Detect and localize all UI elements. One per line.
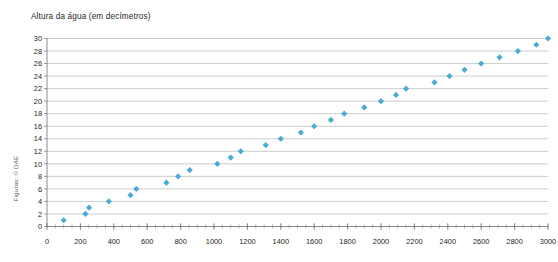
chart-container: Altura da água (em decímetros) Figuras: … bbox=[0, 0, 558, 262]
data-point-marker bbox=[86, 205, 92, 211]
data-point-marker bbox=[278, 136, 284, 142]
y-tick-label: 12 bbox=[34, 147, 42, 156]
scatter-plot-svg: 024681012141618202224262830 020040060080… bbox=[0, 0, 558, 262]
y-tick-label: 30 bbox=[34, 34, 42, 43]
x-tick-label: 400 bbox=[108, 237, 120, 246]
data-point-marker bbox=[187, 167, 193, 173]
data-point-marker bbox=[341, 111, 347, 117]
plot-area: 024681012141618202224262830 020040060080… bbox=[0, 0, 558, 262]
x-tick-label: 1000 bbox=[206, 237, 222, 246]
x-tick-labels-group: 0200400600800100012001400160018002000220… bbox=[45, 237, 556, 246]
x-tick-label: 600 bbox=[141, 237, 153, 246]
y-tick-label: 8 bbox=[38, 172, 42, 181]
y-tick-label: 26 bbox=[34, 59, 42, 68]
data-point-marker bbox=[478, 60, 484, 66]
axis-lines-group bbox=[47, 39, 548, 227]
data-point-marker bbox=[263, 142, 269, 148]
data-point-marker bbox=[214, 161, 220, 167]
data-point-marker bbox=[238, 148, 244, 154]
x-tick-label: 1600 bbox=[306, 237, 322, 246]
data-point-marker bbox=[175, 173, 181, 179]
x-tick-label: 800 bbox=[174, 237, 186, 246]
data-point-marker bbox=[163, 180, 169, 186]
data-point-marker bbox=[393, 92, 399, 98]
data-point-marker bbox=[361, 104, 367, 110]
x-tick-label: 2800 bbox=[506, 237, 522, 246]
y-tick-label: 16 bbox=[34, 122, 42, 131]
data-point-marker bbox=[446, 73, 452, 79]
data-point-marker bbox=[515, 48, 521, 54]
x-tick-label: 3000 bbox=[540, 237, 556, 246]
data-point-marker bbox=[133, 186, 139, 192]
data-point-marker bbox=[61, 217, 67, 223]
data-point-marker bbox=[311, 123, 317, 129]
data-point-marker bbox=[228, 154, 234, 160]
x-tick-label: 1400 bbox=[273, 237, 289, 246]
gridlines-group bbox=[47, 39, 548, 214]
x-tick-label: 2400 bbox=[440, 237, 456, 246]
data-point-marker bbox=[403, 86, 409, 92]
y-tick-label: 2 bbox=[38, 210, 42, 219]
y-tick-label: 6 bbox=[38, 185, 42, 194]
y-tick-label: 20 bbox=[34, 97, 42, 106]
y-tick-label: 0 bbox=[38, 222, 42, 231]
y-tick-label: 14 bbox=[34, 134, 42, 143]
data-point-marker bbox=[298, 129, 304, 135]
data-point-marker bbox=[378, 98, 384, 104]
y-tick-label: 28 bbox=[34, 47, 42, 56]
y-tick-label: 10 bbox=[34, 160, 42, 169]
data-point-marker bbox=[127, 192, 133, 198]
data-point-marker bbox=[461, 67, 467, 73]
x-tick-label: 200 bbox=[74, 237, 86, 246]
data-point-marker bbox=[106, 198, 112, 204]
data-point-marker bbox=[533, 42, 539, 48]
y-tick-label: 22 bbox=[34, 84, 42, 93]
y-tick-label: 4 bbox=[38, 197, 42, 206]
data-point-marker bbox=[545, 35, 551, 41]
data-point-marker bbox=[82, 211, 88, 217]
x-tick-label: 2200 bbox=[406, 237, 422, 246]
x-tick-label: 1200 bbox=[239, 237, 255, 246]
data-point-marker bbox=[328, 117, 334, 123]
y-tick-label: 18 bbox=[34, 109, 42, 118]
x-tick-label: 1800 bbox=[339, 237, 355, 246]
y-tick-label: 24 bbox=[34, 72, 42, 81]
data-point-marker bbox=[431, 79, 437, 85]
data-point-marker bbox=[496, 54, 502, 60]
x-tick-label: 2600 bbox=[473, 237, 489, 246]
x-tick-label: 2000 bbox=[373, 237, 389, 246]
x-tick-label: 0 bbox=[45, 237, 49, 246]
y-tick-labels-group: 024681012141618202224262830 bbox=[34, 34, 47, 231]
